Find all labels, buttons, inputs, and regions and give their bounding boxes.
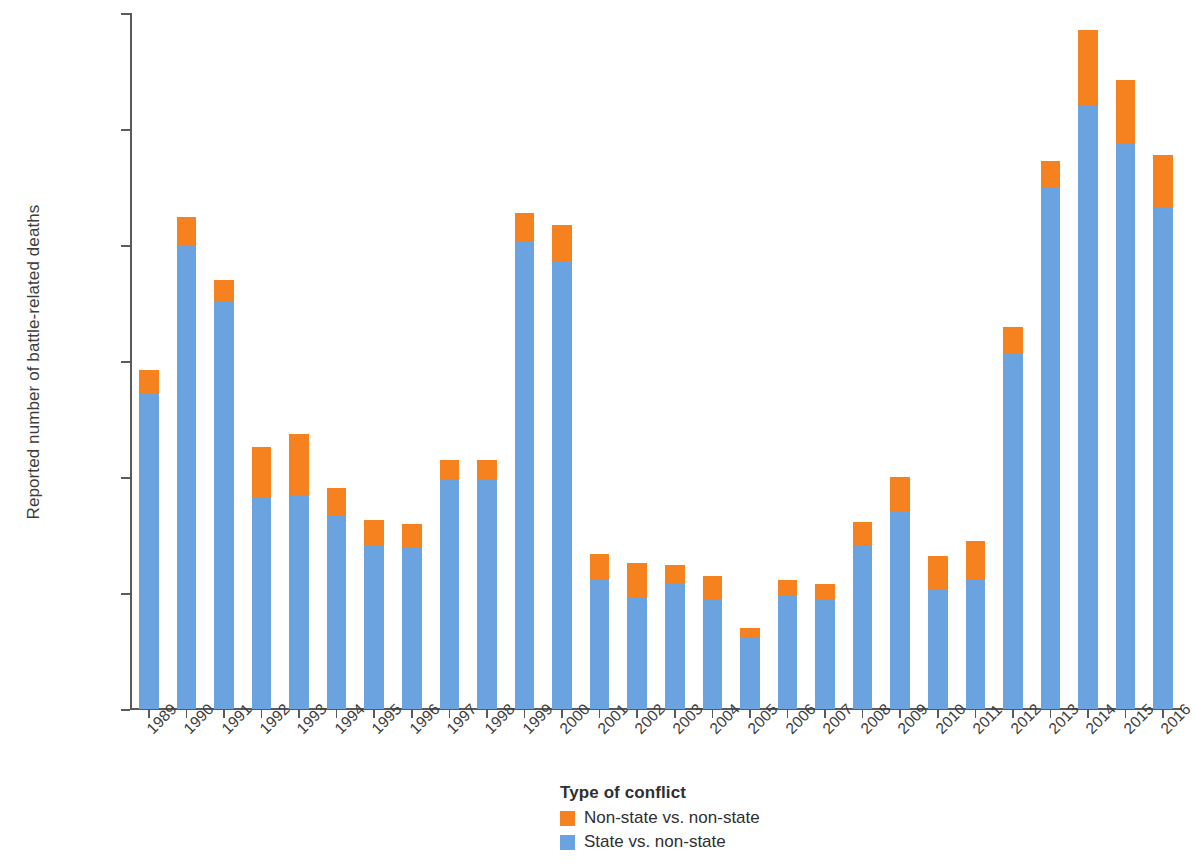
- x-axis-tick: [674, 709, 676, 718]
- bar-segment-non-state-vs-non-state: [1003, 327, 1023, 353]
- bar-segment-state-vs-non-state: [327, 516, 347, 709]
- bar-2003[interactable]: [665, 565, 685, 709]
- bar-segment-non-state-vs-non-state: [214, 280, 234, 301]
- bar-1998[interactable]: [477, 460, 497, 709]
- y-axis-tick: [121, 13, 130, 15]
- bar-2014[interactable]: [1078, 30, 1098, 709]
- bar-segment-non-state-vs-non-state: [364, 520, 384, 545]
- bar-segment-state-vs-non-state: [177, 246, 197, 709]
- bar-segment-state-vs-non-state: [890, 512, 910, 709]
- bar-segment-non-state-vs-non-state: [1078, 30, 1098, 105]
- bar-segment-non-state-vs-non-state: [778, 580, 798, 597]
- bar-segment-state-vs-non-state: [740, 637, 760, 710]
- legend-item-label: State vs. non-state: [584, 832, 726, 852]
- bar-2005[interactable]: [740, 628, 760, 709]
- bar-segment-non-state-vs-non-state: [515, 213, 535, 243]
- bar-segment-non-state-vs-non-state: [815, 584, 835, 600]
- legend: Type of conflict Non-state vs. non-state…: [560, 783, 760, 852]
- bar-segment-state-vs-non-state: [515, 242, 535, 709]
- x-axis-tick: [1125, 709, 1127, 718]
- bar-segment-non-state-vs-non-state: [1041, 161, 1061, 188]
- bar-2007[interactable]: [815, 584, 835, 709]
- bar-segment-state-vs-non-state: [214, 301, 234, 709]
- bar-segment-state-vs-non-state: [139, 394, 159, 709]
- bar-segment-non-state-vs-non-state: [1153, 155, 1173, 208]
- bar-segment-non-state-vs-non-state: [740, 628, 760, 636]
- x-axis-tick: [1050, 709, 1052, 718]
- x-axis-tick: [411, 709, 413, 718]
- y-axis-line: [130, 13, 132, 709]
- bar-1989[interactable]: [139, 370, 159, 709]
- bar-2015[interactable]: [1116, 80, 1136, 709]
- bar-segment-non-state-vs-non-state: [1116, 80, 1136, 144]
- bar-segment-state-vs-non-state: [665, 584, 685, 709]
- bar-segment-state-vs-non-state: [1153, 207, 1173, 709]
- bar-1999[interactable]: [515, 213, 535, 709]
- plot-area: 020,00040,00060,00080,000100,000120,000 …: [130, 13, 1182, 709]
- bar-segment-state-vs-non-state: [966, 579, 986, 710]
- legend-item[interactable]: Non-state vs. non-state: [560, 808, 760, 828]
- bar-2013[interactable]: [1041, 161, 1061, 709]
- bar-segment-non-state-vs-non-state: [627, 563, 647, 598]
- bar-segment-non-state-vs-non-state: [139, 370, 159, 394]
- bar-segment-non-state-vs-non-state: [477, 460, 497, 480]
- bar-1996[interactable]: [402, 524, 422, 709]
- bar-segment-state-vs-non-state: [289, 496, 309, 709]
- bar-segment-state-vs-non-state: [778, 596, 798, 709]
- bar-segment-state-vs-non-state: [440, 479, 460, 709]
- bar-segment-non-state-vs-non-state: [966, 541, 986, 579]
- legend-item-label: Non-state vs. non-state: [584, 808, 760, 828]
- bar-2004[interactable]: [703, 576, 723, 709]
- y-axis-tick: [121, 709, 130, 711]
- x-axis-tick: [599, 709, 601, 718]
- bar-segment-non-state-vs-non-state: [252, 447, 272, 499]
- bar-2001[interactable]: [590, 554, 610, 709]
- bar-2009[interactable]: [890, 477, 910, 709]
- bar-segment-non-state-vs-non-state: [289, 434, 309, 496]
- y-axis-tick: [121, 129, 130, 131]
- x-axis-tick: [148, 709, 150, 718]
- y-axis-tick: [121, 477, 130, 479]
- bar-2012[interactable]: [1003, 327, 1023, 709]
- bar-segment-state-vs-non-state: [252, 498, 272, 709]
- bar-segment-non-state-vs-non-state: [402, 524, 422, 547]
- bar-segment-state-vs-non-state: [1003, 353, 1023, 709]
- bar-2000[interactable]: [552, 225, 572, 709]
- bar-1990[interactable]: [177, 217, 197, 709]
- x-axis-tick: [524, 709, 526, 718]
- bar-1995[interactable]: [364, 520, 384, 709]
- bar-segment-state-vs-non-state: [815, 600, 835, 709]
- bar-1994[interactable]: [327, 488, 347, 709]
- y-axis-title: Reported number of battle-related deaths: [24, 162, 44, 562]
- y-axis-tick: [121, 361, 130, 363]
- bar-segment-non-state-vs-non-state: [703, 576, 723, 599]
- bar-1993[interactable]: [289, 434, 309, 709]
- bar-segment-non-state-vs-non-state: [890, 477, 910, 512]
- bar-1992[interactable]: [252, 447, 272, 709]
- x-axis-tick: [261, 709, 263, 718]
- bar-2006[interactable]: [778, 580, 798, 709]
- x-axis-tick: [862, 709, 864, 718]
- x-axis-tick: [336, 709, 338, 718]
- x-axis-tick: [787, 709, 789, 718]
- y-axis-tick: [121, 593, 130, 595]
- x-axis-tick: [937, 709, 939, 718]
- bar-segment-state-vs-non-state: [703, 599, 723, 709]
- bar-2011[interactable]: [966, 541, 986, 709]
- bar-2002[interactable]: [627, 563, 647, 709]
- bar-1991[interactable]: [214, 280, 234, 709]
- legend-item[interactable]: State vs. non-state: [560, 832, 760, 852]
- bar-segment-state-vs-non-state: [402, 547, 422, 709]
- legend-title: Type of conflict: [560, 783, 760, 803]
- bar-segment-non-state-vs-non-state: [440, 460, 460, 479]
- bar-segment-non-state-vs-non-state: [590, 554, 610, 581]
- bar-segment-state-vs-non-state: [364, 545, 384, 709]
- bar-segment-state-vs-non-state: [1041, 188, 1061, 709]
- bar-2010[interactable]: [928, 556, 948, 709]
- bar-1997[interactable]: [440, 460, 460, 709]
- bar-segment-non-state-vs-non-state: [552, 225, 572, 262]
- bar-2008[interactable]: [853, 522, 873, 709]
- bar-segment-state-vs-non-state: [552, 262, 572, 709]
- bar-2016[interactable]: [1153, 155, 1173, 709]
